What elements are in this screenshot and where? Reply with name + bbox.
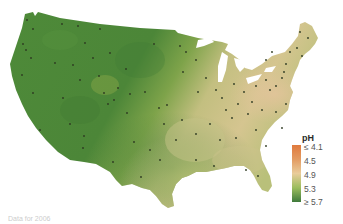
ph-legend: pH ≤ 4.1 4.5 4.9 5.3 ≥ 5.7: [292, 133, 342, 213]
legend-label-5-7: ≥ 5.7: [304, 198, 323, 207]
legend-color-bar: [292, 145, 301, 202]
map-caption: Data for 2006: [8, 215, 50, 222]
legend-label-4-9: 4.9: [304, 171, 316, 180]
legend-label-4-1: ≤ 4.1: [304, 143, 323, 152]
legend-label-4-5: 4.5: [304, 157, 316, 166]
legend-label-5-3: 5.3: [304, 185, 316, 194]
